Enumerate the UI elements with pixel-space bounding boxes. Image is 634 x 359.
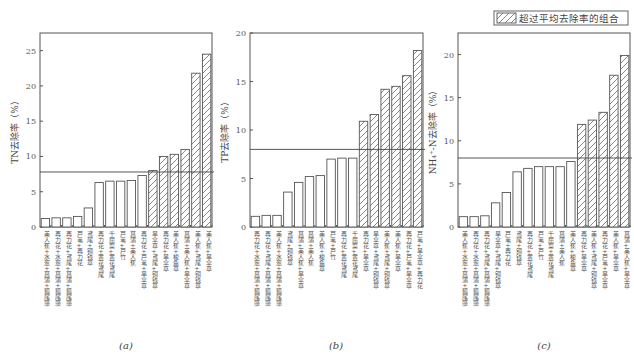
bar <box>470 217 478 227</box>
y-tick-label: 15 <box>236 78 246 87</box>
y-tick-label: 20 <box>236 29 246 38</box>
bar-above-mean <box>181 149 189 227</box>
legend: 超过平均去除率的组合 <box>494 11 628 25</box>
bar <box>556 167 564 227</box>
bar-above-mean <box>192 73 200 227</box>
category-label: 美人蕉+水葱+菖蒲+狐尾藻 <box>44 230 51 307</box>
bar-above-mean <box>159 156 167 227</box>
category-label: 美人蕉+水葱+菖蒲+狐尾藻 <box>462 230 469 307</box>
bar <box>41 219 49 227</box>
y-tick-label: 15 <box>444 94 454 103</box>
bar <box>327 159 335 227</box>
y-tick-label: 20 <box>444 51 454 60</box>
category-label: 再力花+鸢尾+菖蒲+狐尾藻 <box>483 231 490 307</box>
chart-panel-2: 05101520TP去除率（%）再力花+水葱+菖蒲+狐尾藻再力花+鸢尾+菖蒲+狐… <box>219 29 425 351</box>
category-label: 旱伞草+鸢尾+铜钱草 <box>151 231 158 290</box>
legend-swatch <box>497 13 516 23</box>
bar <box>567 161 575 227</box>
bar-above-mean <box>403 76 411 227</box>
y-axis-label: TN去除率（%） <box>9 96 20 163</box>
y-tick-label: 15 <box>26 117 36 126</box>
bar <box>513 172 521 227</box>
bar <box>545 167 553 227</box>
category-label: 菖蒲+美人蕉 <box>308 230 315 267</box>
category-label: 美人蕉+鸢尾+铜钱草 <box>591 230 598 290</box>
category-label: 再力花+水葱+菖蒲+狐尾藻 <box>55 231 62 307</box>
bar <box>251 216 259 227</box>
y-axis-label: TP去除率（%） <box>219 97 230 163</box>
bar <box>273 215 281 227</box>
category-label: 再力花+水葱+菖蒲+狐尾藻 <box>473 231 480 307</box>
y-tick-label: 10 <box>236 126 246 135</box>
bar <box>262 215 270 227</box>
y-tick-label: 5 <box>241 175 246 184</box>
y-axis-label: NH₄⁺-N去除率（%） <box>427 86 438 175</box>
bar-above-mean <box>359 121 367 227</box>
bar-above-mean <box>599 112 607 227</box>
bar-above-mean <box>588 120 596 227</box>
category-label: 美人蕉+鸢尾+铜钱草 <box>384 230 391 290</box>
y-tick-label: 0 <box>241 223 246 232</box>
y-tick-label: 10 <box>444 137 454 146</box>
bar-above-mean <box>620 55 628 227</box>
y-tick-label: 5 <box>31 188 36 197</box>
category-label: 鸢尾+铜钱草 <box>286 230 293 267</box>
category-label: 千屈菜+黄花鸢尾 <box>108 230 115 279</box>
panel-label: (a) <box>119 340 133 351</box>
category-label: 旱伞草+鸢尾+铜钱草 <box>494 231 501 290</box>
category-label: 千屈菜+黄花鸢尾 <box>548 230 555 279</box>
bar-above-mean <box>577 124 585 227</box>
category-label: 菖蒲+美人蕉+旱伞草 <box>297 230 304 290</box>
bar <box>95 183 103 227</box>
category-label: 芦苇+芦竹 <box>330 230 337 261</box>
bar <box>138 176 146 227</box>
bar <box>338 158 346 227</box>
bar <box>491 203 499 227</box>
category-label: 美人蕉+梭鱼草 <box>569 230 576 273</box>
panel-label: (b) <box>329 340 343 351</box>
figure: 超过平均去除率的组合 0510152025TN去除率（%）美人蕉+水葱+菖蒲+狐… <box>0 0 634 359</box>
bar <box>316 176 324 227</box>
bar-above-mean <box>370 114 378 227</box>
bar <box>502 193 510 227</box>
category-label: 再力花+鸢尾+菖蒲+狐尾藻 <box>265 231 272 307</box>
category-label: 菖蒲+美人蕉 <box>130 230 137 267</box>
legend-label: 超过平均去除率的组合 <box>519 13 619 24</box>
bar-above-mean <box>413 50 421 227</box>
category-label: 再力花+水葱+菖蒲+狐尾藻 <box>254 231 261 307</box>
bar-above-mean <box>170 154 178 227</box>
category-label: 鸢尾+铜钱草 <box>87 230 94 267</box>
bar <box>116 181 124 227</box>
category-label: 美人蕉+梭鱼草 <box>173 230 180 273</box>
category-label: 芦苇+旱伞草+再力花 <box>416 230 423 290</box>
y-tick-label: 25 <box>26 47 36 56</box>
bar <box>294 182 302 227</box>
category-label: 再力花+旱伞草 <box>580 231 587 273</box>
bar <box>106 181 114 227</box>
y-tick-label: 20 <box>26 82 36 91</box>
category-label: 再力花+芦苇+旱伞草 <box>405 231 412 290</box>
bar <box>349 158 357 227</box>
category-label: 芦苇+芦竹 <box>537 230 544 261</box>
category-label: 芦苇+芦竹 <box>119 230 126 261</box>
bar <box>73 216 81 227</box>
category-label: 美人蕉+旱伞草 <box>612 230 619 273</box>
category-label: 再力花+旱伞草 <box>362 231 369 273</box>
bar <box>534 167 542 227</box>
bar-above-mean <box>610 75 618 227</box>
bar <box>84 208 92 227</box>
bar <box>127 180 135 227</box>
category-label: 再力花+黄花鸢尾 <box>340 231 347 279</box>
category-label: 再力花+芦苇+旱伞草 <box>141 231 148 290</box>
y-tick-label: 0 <box>449 223 454 232</box>
bar <box>524 168 532 227</box>
bar <box>52 218 60 227</box>
bar-above-mean <box>381 89 389 227</box>
category-label: 美人蕉+旱伞草 <box>205 230 212 273</box>
category-label: 再力花+鸢尾+菖蒲+狐尾藻 <box>65 231 72 307</box>
category-label: 再力花+旱伞草 <box>162 231 169 273</box>
bar <box>305 177 313 227</box>
chart-panel-3: 05101520NH₄⁺-N去除率（%）美人蕉+水葱+菖蒲+狐尾藻再力花+水葱+… <box>427 33 632 351</box>
category-label: 美人蕉+水葱+菖蒲+狐尾藻 <box>276 230 283 307</box>
category-label: 千屈菜+黄花鸢尾 <box>351 230 358 279</box>
